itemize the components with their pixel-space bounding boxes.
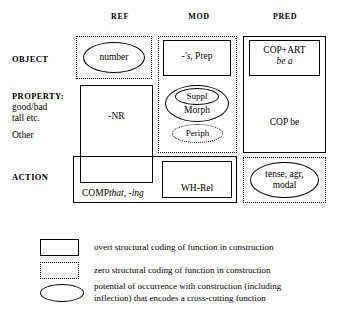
legend-text-potential-line-2: inflection) that encodes a cross-cutting…	[94, 293, 338, 305]
oval-tense-line-1: tense, agr,	[265, 169, 303, 180]
legend-symbol-oval	[40, 284, 84, 302]
cell-mod-object-label-plain: , Prep	[190, 51, 212, 61]
oval-tense-agr-modal: tense, agr, modal	[250, 162, 319, 198]
legend-symbol-solid-rectangle	[40, 239, 79, 256]
oval-periph-label: Periph	[186, 128, 210, 139]
cell-pred-object-label-italic: be a	[249, 56, 320, 67]
cell-mod-action-label: WH-Rel	[162, 183, 232, 194]
row-label-property-sub-1: good/bad	[12, 102, 78, 113]
cell-action-comp-label-italic: that, -ing	[109, 188, 144, 198]
row-label-action-text: ACTION	[12, 172, 74, 183]
oval-number-label: number	[99, 52, 128, 63]
oval-suppl: Suppl	[175, 88, 219, 105]
oval-morph-label: Morph	[165, 105, 229, 116]
cell-pred-object-label-plain: COP+ART	[249, 45, 320, 56]
legend-symbol-dotted-rectangle	[40, 262, 79, 279]
legend-text-potential: potential of occurrence with constructio…	[94, 281, 338, 304]
row-label-object: OBJECT	[12, 54, 74, 65]
oval-tense-line-2: modal	[265, 180, 303, 191]
cell-pred-property-label: COP be	[243, 117, 326, 128]
oval-tense-agr-modal-label: tense, agr, modal	[265, 169, 303, 191]
column-header-ref: REF	[76, 12, 164, 21]
oval-periph: Periph	[172, 124, 223, 143]
row-label-action: ACTION	[12, 172, 74, 183]
figure-canvas: REF MOD PRED OBJECT PROPERTY: good/bad t…	[0, 0, 339, 319]
row-label-property: PROPERTY: good/bad tall etc. Other	[12, 91, 78, 141]
cell-action-comp-label-plain: COMP	[82, 188, 109, 198]
cell-pred-object-label: COP+ART be a	[249, 45, 320, 67]
row-label-property-text: PROPERTY:	[12, 91, 78, 102]
cell-ref-property-label: -NR	[80, 111, 153, 122]
column-header-pred: PRED	[240, 12, 330, 21]
legend-text-overt: overt structural coding of function in c…	[94, 242, 334, 254]
row-label-object-text: OBJECT	[12, 54, 74, 65]
column-header-mod: MOD	[158, 12, 240, 21]
oval-number: number	[83, 42, 145, 73]
oval-suppl-label: Suppl	[186, 91, 207, 102]
legend-text-potential-line-1: potential of occurrence with constructio…	[94, 281, 338, 293]
legend-text-zero: zero structural coding of function in co…	[94, 265, 334, 277]
cell-mod-object-label: -'s, Prep	[163, 51, 231, 62]
row-label-property-sub-3: Other	[12, 130, 78, 141]
row-label-property-sub-2: tall etc.	[12, 113, 78, 124]
